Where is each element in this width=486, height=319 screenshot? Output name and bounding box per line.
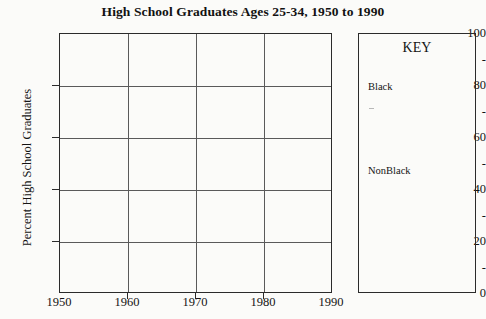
plot-area — [59, 33, 332, 293]
legend-title: KEY — [359, 40, 475, 56]
x-axis-label-1990: 1990 — [306, 296, 356, 309]
chart-page: High School Graduates Ages 25-34, 1950 t… — [0, 0, 486, 319]
legend-item-black: Black — [368, 81, 393, 92]
legend-item-nonblack: NonBlack — [368, 165, 411, 176]
y-axis-title: Percent High School Graduates — [20, 38, 35, 298]
legend-marker-black — [369, 108, 374, 109]
y-tick-60 — [52, 137, 59, 138]
page-title: High School Graduates Ages 25-34, 1950 t… — [0, 4, 486, 20]
gridline-x-1960 — [128, 34, 129, 292]
x-axis-label-1970: 1970 — [170, 296, 220, 309]
gridline-x-1980 — [264, 34, 265, 292]
plot-grid — [60, 34, 331, 292]
x-axis-label-1980: 1980 — [238, 296, 288, 309]
legend-box: KEY Black NonBlack — [358, 33, 476, 293]
y-tick-20 — [52, 241, 59, 242]
y-tick-80 — [52, 85, 59, 86]
x-axis-label-1960: 1960 — [102, 296, 152, 309]
y-tick-40 — [52, 189, 59, 190]
x-axis-label-1950: 1950 — [34, 296, 84, 309]
gridline-x-1970 — [196, 34, 197, 292]
